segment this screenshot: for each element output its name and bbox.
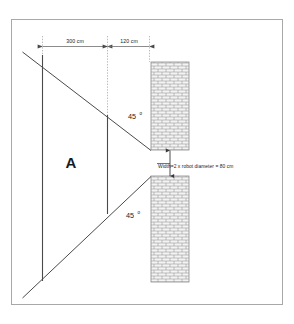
lower-funnel-diagonal (23, 177, 152, 299)
figure-frame (12, 20, 283, 305)
angle-label-lower: 45 (126, 211, 134, 220)
corridor-geometry-figure: 300 cm 120 cm 45 o 45 o A Width=2 x (0, 0, 294, 324)
angle-degree-symbol-upper: o (140, 111, 143, 116)
angle-degree-symbol-lower: o (138, 210, 141, 215)
angle-annotation-lower: 45 o (126, 210, 141, 221)
dimension-extension-lines (43, 36, 150, 116)
wall-block-upper (151, 62, 189, 150)
zone-label-a: A (66, 154, 77, 171)
upper-funnel-diagonal (23, 52, 152, 151)
dimension-label-120: 120 cm (120, 38, 138, 44)
dimension-label-300: 300 cm (66, 38, 84, 44)
wall-block-lower (151, 176, 189, 282)
diagram-canvas: 300 cm 120 cm 45 o 45 o A Width=2 x (0, 0, 294, 324)
angle-label-upper: 45 (128, 112, 136, 121)
angle-annotation-upper: 45 o (128, 111, 143, 122)
gap-width-note: Width=2 x robot diameter = 80 cm (158, 164, 233, 169)
